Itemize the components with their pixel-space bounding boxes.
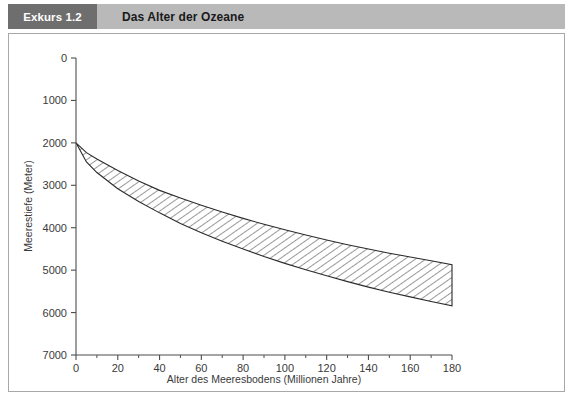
figure-content-frame	[8, 33, 565, 392]
figure-root: Exkurs 1.2 Das Alter der Ozeane 010	[0, 0, 575, 396]
figure-title: Das Alter der Ozeane	[122, 10, 244, 24]
figure-header: Exkurs 1.2 Das Alter der Ozeane	[8, 4, 565, 29]
header-title-band: Das Alter der Ozeane	[97, 4, 565, 29]
header-tag-badge: Exkurs 1.2	[8, 4, 97, 29]
header-tag-label: Exkurs 1.2	[23, 11, 82, 23]
